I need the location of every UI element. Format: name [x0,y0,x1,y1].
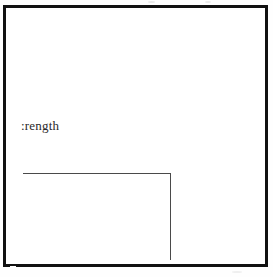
scan-speckle [232,271,242,273]
frame-edge-nick [10,266,16,269]
step-line-horizontal-segment [23,173,171,174]
figure-frame: :rength [3,5,268,267]
step-line-vertical-segment [170,173,171,260]
scan-speckle [205,1,211,3]
scan-speckle [148,1,155,3]
figure-page: :rength [0,0,273,277]
axis-label-strength: :rength [21,118,59,134]
